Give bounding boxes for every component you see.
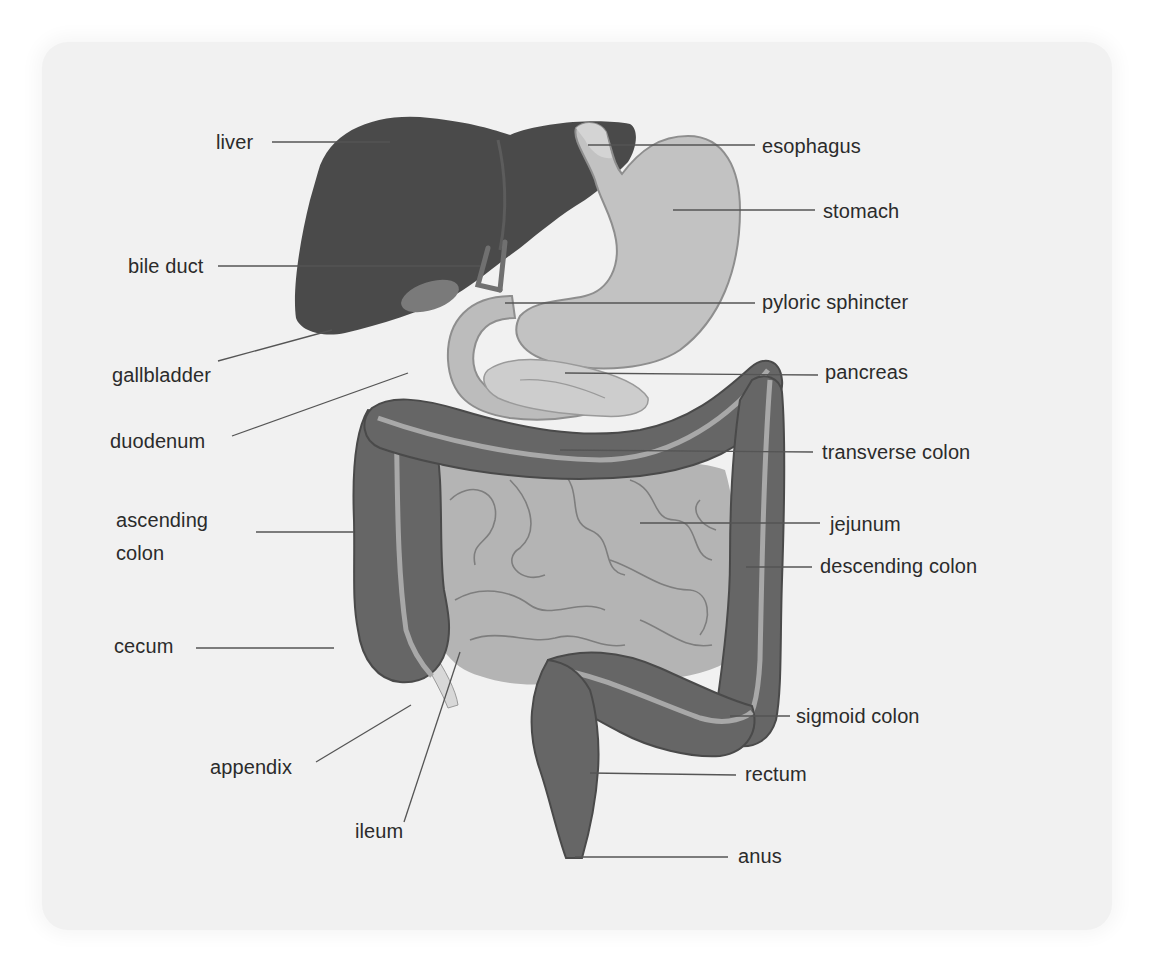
- label-cecum: cecum: [114, 635, 173, 657]
- label-duodenum: duodenum: [110, 430, 205, 452]
- leader-line-rectum: [590, 773, 736, 775]
- label-stomach: stomach: [823, 200, 899, 222]
- label-jejunum: jejunum: [830, 513, 901, 535]
- label-anus: anus: [738, 845, 782, 867]
- label-sigmoid-colon: sigmoid colon: [796, 705, 920, 727]
- small-intestine-organ: [427, 456, 737, 684]
- label-appendix: appendix: [210, 756, 292, 778]
- label-gallbladder: gallbladder: [112, 364, 211, 386]
- digestive-system-illustration: [0, 0, 1158, 966]
- label-pyloric-sphincter: pyloric sphincter: [762, 291, 908, 313]
- label-bile-duct: bile duct: [128, 255, 203, 277]
- label-esophagus: esophagus: [762, 135, 861, 157]
- label-ascending-colon: ascending colon: [116, 504, 208, 570]
- label-pancreas: pancreas: [825, 361, 908, 383]
- label-rectum: rectum: [745, 763, 807, 785]
- rectum-organ: [532, 660, 599, 858]
- leader-line-appendix: [316, 705, 411, 762]
- label-transverse-colon: transverse colon: [822, 441, 970, 463]
- leader-line-gallbladder: [218, 330, 332, 361]
- label-liver: liver: [216, 131, 253, 153]
- label-ileum: ileum: [355, 820, 403, 842]
- label-descending-colon: descending colon: [820, 555, 977, 577]
